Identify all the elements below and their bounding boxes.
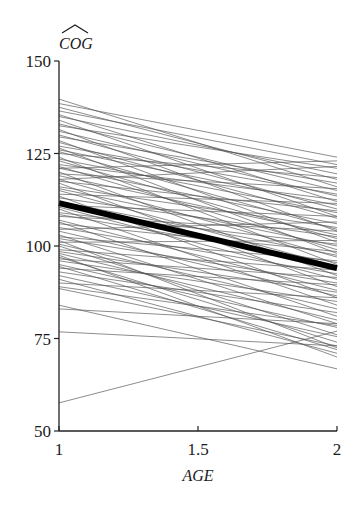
individual-lines — [59, 99, 337, 403]
y-tick-label: 100 — [26, 237, 52, 256]
y-ticks: 5075100125150 — [26, 52, 60, 441]
individual-trajectory — [59, 257, 337, 342]
y-axis-title: COG — [59, 25, 93, 52]
hat-accent — [62, 25, 88, 33]
y-tick-label: 125 — [26, 145, 52, 164]
individual-trajectory — [59, 332, 337, 346]
chart: 5075100125150 11.52 COG AGE — [0, 0, 361, 511]
individual-trajectory — [59, 104, 337, 158]
y-tick-label: 150 — [26, 52, 52, 71]
individual-trajectory — [59, 309, 337, 324]
x-tick-label: 2 — [333, 440, 342, 459]
y-tick-label: 75 — [34, 330, 51, 349]
mean-trajectory — [59, 203, 337, 268]
y-tick-label: 50 — [34, 422, 51, 441]
axes — [59, 61, 337, 431]
mean-line — [59, 203, 337, 268]
individual-trajectory — [59, 161, 337, 168]
x-tick-label: 1.5 — [187, 440, 208, 459]
x-tick-label: 1 — [55, 440, 64, 459]
y-axis-label: COG — [59, 35, 93, 52]
individual-trajectory — [59, 135, 337, 209]
individual-trajectory — [59, 111, 337, 165]
x-axis-label: AGE — [181, 467, 213, 484]
